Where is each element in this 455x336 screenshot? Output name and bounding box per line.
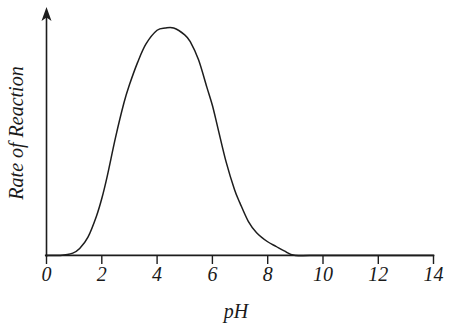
x-tick-label-4: 4 <box>152 263 162 285</box>
chart-figure: 0 2 4 6 8 10 12 14 pH Rate of Reaction <box>0 0 455 336</box>
chart-canvas: 0 2 4 6 8 10 12 14 pH Rate of Reaction <box>0 0 455 336</box>
x-tick-label-12: 12 <box>368 263 388 285</box>
x-tick-label-10: 10 <box>313 263 333 285</box>
reaction-rate-curve <box>47 27 434 255</box>
x-tick-label-8: 8 <box>263 263 273 285</box>
y-axis-title: Rate of Reaction <box>5 66 28 200</box>
x-axis-title: pH <box>222 300 250 323</box>
x-tick-label-6: 6 <box>207 263 217 285</box>
x-tick-label-2: 2 <box>97 263 107 285</box>
x-axis-tick-labels: 0 2 4 6 8 10 12 14 <box>42 263 444 285</box>
x-tick-label-14: 14 <box>424 263 444 285</box>
x-tick-label-0: 0 <box>42 263 52 285</box>
